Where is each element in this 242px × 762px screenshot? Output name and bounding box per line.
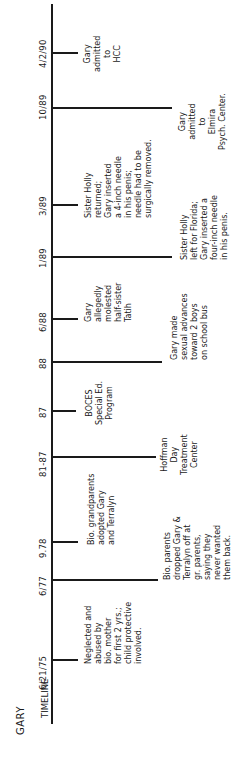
event-description: Gary admitted to Elmira Psych. Center. bbox=[178, 93, 228, 150]
timeline-tick bbox=[52, 659, 78, 661]
event-date: 6/21/75 bbox=[38, 656, 48, 690]
timeline-tick bbox=[52, 52, 78, 54]
event-description: Hoffman Day Treatment Center bbox=[160, 434, 200, 475]
timeline-tick bbox=[52, 318, 78, 320]
event-date: 1/89 bbox=[38, 248, 48, 268]
event-date: 10/89 bbox=[38, 95, 48, 121]
event-description: Bio. grandparents adopted Gary and Terra… bbox=[87, 474, 117, 545]
timeline-tick bbox=[52, 107, 172, 109]
event-description: Sister Holly left for Florida; Gary inse… bbox=[180, 195, 230, 260]
timeline-tick bbox=[52, 541, 78, 543]
timeline-axis bbox=[51, 4, 53, 724]
timeline-tick bbox=[52, 410, 76, 412]
event-description: BOCES Special Ed. Program bbox=[85, 381, 115, 425]
event-date: 3/89 bbox=[38, 196, 48, 216]
timeline-tick bbox=[52, 361, 162, 363]
event-description: Neglected and abused by bio. mother for … bbox=[84, 602, 144, 664]
timeline-tick bbox=[52, 456, 156, 458]
timeline-tick bbox=[52, 204, 78, 206]
event-description: Gary made sexual advances toward 2 boys … bbox=[170, 293, 210, 360]
event-date: 81-87 bbox=[38, 451, 48, 477]
event-date: 4/2/90 bbox=[38, 39, 48, 68]
timeline-tick bbox=[52, 579, 158, 581]
event-description: Bio. parents dropped Gary & Terralyn off… bbox=[163, 516, 233, 580]
event-description: Sister Holly returned; Gary inserted a 4… bbox=[84, 139, 154, 218]
document-title: GARY bbox=[15, 706, 26, 735]
timeline-tick bbox=[52, 256, 172, 258]
event-date: 88 bbox=[38, 358, 48, 369]
event-date: 6/77 bbox=[38, 576, 48, 596]
event-date: 9.78 bbox=[38, 538, 48, 558]
event-description: Gary admitted to HCC bbox=[83, 36, 123, 72]
event-description: Gary allegedly molested half-sister Tati… bbox=[84, 283, 134, 322]
event-date: 6/88 bbox=[38, 312, 48, 332]
event-date: 87 bbox=[38, 407, 48, 418]
